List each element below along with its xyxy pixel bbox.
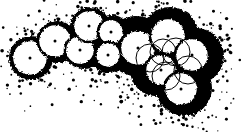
stipple-dot [201,122,203,124]
stipple-dot [6,83,9,86]
stipple-dot [226,92,227,93]
stipple-dot [29,82,32,85]
stipple-dot [6,88,8,90]
stipple-dot [225,33,228,36]
stipple-dot [166,2,169,5]
stipple-dot [186,124,189,127]
stipple-dot [103,73,106,76]
stipple-dot [170,117,173,120]
stipple-dot [51,103,54,106]
stipple-dot [7,51,8,52]
stipple-dot [123,83,125,85]
stipple-dot [94,100,96,102]
stipple-dot [116,81,118,83]
stipple-dot [132,103,134,105]
stipple-dot [24,29,27,32]
stipple-dot [124,11,127,14]
stipple-dot [231,28,233,30]
sphere-center-dot [79,49,82,52]
stipple-dot [219,99,220,100]
sphere-center-dot [29,57,32,60]
stipple-dot [157,1,159,3]
stipple-dot [204,109,206,111]
stipple-dot [116,12,119,15]
stipple-dot [218,79,219,80]
stipple-dot [144,94,147,97]
stipple-dot [228,44,231,47]
stipple-dot [76,5,79,8]
stipple-dot [136,92,137,93]
stipple-dot [182,116,185,119]
stipple-dot [206,25,208,27]
stipple-dot [163,3,165,5]
stipple-dot [44,81,46,83]
stipple-dot [121,76,122,77]
stipple-dot [21,79,24,82]
stipple-dot [27,28,29,30]
stipple-dot [153,104,156,107]
sphere-aggregate-illustration [0,0,242,132]
stipple-dot [48,84,51,87]
stipple-dot [233,98,235,100]
stipple-dot [71,72,73,74]
stipple-dot [129,112,131,114]
stipple-dot [71,15,73,17]
stipple-dot [54,88,56,90]
stipple-dot [229,51,232,54]
stipple-dot [102,9,104,11]
stipple-dot [198,127,199,128]
stipple-dot [159,122,161,124]
stipple-dot [227,48,229,50]
stipple-dot [198,16,200,18]
stipple-dot [31,32,34,35]
stipple-dot [209,22,213,26]
stipple-dot [239,59,242,62]
sphere-center-dot [88,25,91,28]
stipple-dot [72,78,75,81]
stipple-dot [225,17,228,20]
stipple-dot [16,26,17,27]
stipple-dot [20,92,22,94]
stipple-dot [154,122,157,125]
stipple-dot [100,79,102,81]
stipple-dot [129,9,131,11]
stipple-dot [38,81,39,82]
stipple-dot [84,69,87,72]
stipple-dot [38,9,41,12]
sphere-center-dot [107,54,110,57]
stipple-dot [225,49,226,50]
stipple-dot [212,25,213,26]
stipple-dot [130,88,134,92]
stipple-dot [48,13,50,15]
stipple-dot [91,72,93,74]
stipple-dot [100,81,101,82]
stipple-dot [119,95,122,98]
stipple-dot [221,91,222,92]
stipple-dot [63,74,64,75]
stipple-dot [165,118,167,120]
stipple-dot [224,60,227,63]
stipple-dot [211,89,214,92]
stipple-dot [94,80,97,83]
stipple-dot [55,15,57,17]
stipple-dot [43,18,45,20]
stipple-dot [47,86,48,87]
stipple-dot [80,6,83,9]
stipple-dot [75,86,77,88]
stipple-dot [217,130,218,131]
stipple-dot [212,10,215,13]
stipple-dot [10,74,12,76]
sphere-center-dot [180,88,183,91]
stipple-dot [191,126,193,128]
stipple-dot [158,4,160,6]
stipple-dot [182,123,185,126]
stipple-dot [121,100,123,102]
stipple-dot [140,105,143,108]
stipple-dot [2,26,5,29]
stipple-dot [211,27,213,29]
stipple-dot [230,102,232,104]
stipple-dot [98,72,101,75]
stipple-dot [128,84,130,86]
stipple-dot [160,105,162,107]
stipple-dot [194,115,195,116]
